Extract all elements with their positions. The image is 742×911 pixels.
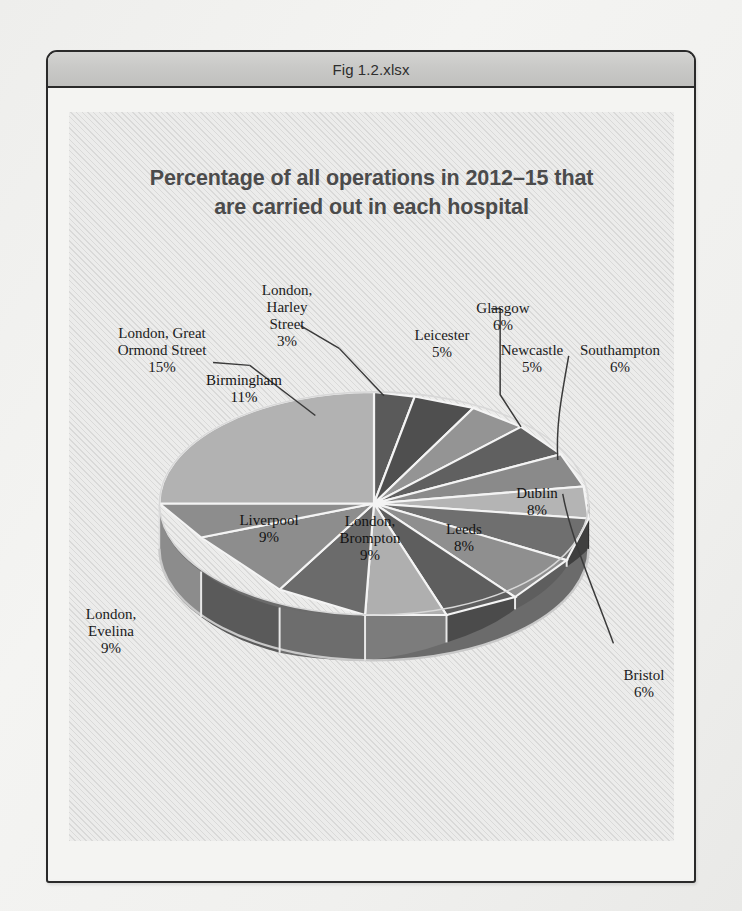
slice-label-london-brompton: London, Brompton 9% — [314, 513, 426, 564]
chart-plot-area[interactable]: Percentage of all operations in 2012–15 … — [69, 112, 674, 841]
outer-label-london-great-ormond-street: London, Great Ormond Street 15% — [86, 325, 238, 376]
pie-slice-london-great-ormond-street[interactable] — [159, 392, 374, 504]
window-body: Percentage of all operations in 2012–15 … — [48, 88, 694, 879]
outer-label-southampton: Southampton 6% — [559, 342, 674, 376]
window-title: Fig 1.2.xlsx — [332, 61, 409, 78]
slice-label-birmingham: Birmingham 11% — [179, 372, 309, 406]
slice-label-liverpool: Liverpool 9% — [217, 512, 321, 546]
outer-label-london-harley-street: London, Harley Street 3% — [237, 282, 337, 350]
slice-label-leeds: Leeds 8% — [420, 521, 508, 555]
pie-chart-3d — [69, 112, 674, 841]
outer-label-bristol: Bristol 6% — [600, 667, 674, 701]
window-titlebar[interactable]: Fig 1.2.xlsx — [48, 52, 694, 88]
outer-label-london-evelina: London, Evelina 9% — [69, 606, 165, 657]
spreadsheet-window: Fig 1.2.xlsx Percentage of all operation… — [46, 50, 696, 883]
slice-label-dublin: Dublin 8% — [492, 485, 582, 519]
outer-label-glasgow: Glasgow 6% — [452, 300, 554, 334]
